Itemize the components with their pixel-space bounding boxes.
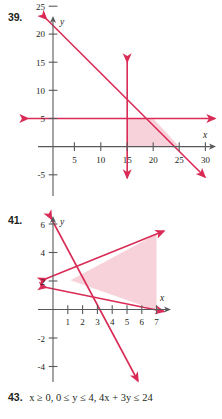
problem-43: 43. x ≥ 0, 0 ≤ y ≤ 4, 4x + 3y ≤ 24 (8, 391, 153, 403)
graph-41-svg: y x 1 2 3 4 5 6 7 (20, 206, 222, 384)
y-tick-label: 2 (41, 277, 46, 287)
problem-41: 41. y x (0, 198, 222, 383)
x-tick-label: 5 (125, 317, 130, 327)
x-tick-label: 30 (201, 155, 211, 165)
x-tick-label: 15 (123, 155, 133, 165)
y-tick-label: -2 (38, 334, 46, 344)
graph-39: y x 5 10 15 20 25 30 (20, 6, 222, 198)
y-tick-label: 6 (41, 220, 46, 230)
x-tick-label: 20 (149, 155, 159, 165)
y-tick-labels-41: -4 -2 2 4 6 (38, 220, 46, 373)
x-tick-label: 4 (110, 317, 115, 327)
x-axis-label-39: x (202, 130, 208, 140)
x-tick-label: 5 (72, 155, 77, 165)
y-tick-label: 10 (36, 86, 46, 96)
boundary-line-steep-falling-41 (52, 219, 139, 381)
y-axis-label-39: y (59, 17, 65, 27)
y-tick-labels-39: -5 5 10 15 20 25 (36, 2, 46, 181)
x-tick-label: 2 (80, 317, 85, 327)
x-tick-label: 1 (66, 317, 71, 327)
x-tick-labels-41: 1 2 3 4 5 6 7 (66, 317, 160, 327)
y-tick-label: -4 (38, 362, 46, 372)
x-tick-label: 10 (96, 155, 106, 165)
y-tick-label: 5 (41, 114, 46, 124)
y-tick-label: 25 (36, 2, 46, 12)
x-axis-label-41: x (159, 293, 165, 303)
graph-41: y x 1 2 3 4 5 6 7 (20, 206, 222, 384)
x-tick-label: 7 (154, 317, 159, 327)
solution-region-41 (71, 234, 157, 311)
x-tick-labels-39: 5 10 15 20 25 30 (72, 155, 210, 165)
graph-39-svg: y x 5 10 15 20 25 30 (20, 6, 222, 198)
y-axis-label-41: y (59, 217, 65, 227)
boundary-line-diagonal-39 (47, 19, 206, 177)
problem-43-number: 43. (8, 391, 23, 403)
y-tick-label: -5 (38, 170, 46, 180)
y-tick-label: 4 (41, 248, 46, 258)
x-tick-label: 3 (95, 317, 100, 327)
y-tick-label: 15 (36, 58, 46, 68)
y-tick-label: 20 (36, 29, 46, 39)
problem-39: 39. y x (0, 0, 222, 198)
x-tick-label: 25 (175, 155, 185, 165)
problem-43-expression: x ≥ 0, 0 ≤ y ≤ 4, 4x + 3y ≤ 24 (29, 392, 152, 403)
x-tick-label: 6 (140, 317, 145, 327)
